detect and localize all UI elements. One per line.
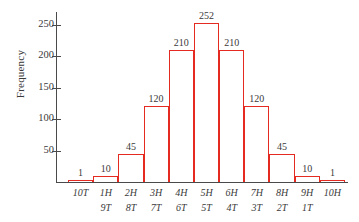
y-tick-mark [52,25,61,26]
bar-value-label: 120 [236,94,277,104]
y-tick-label: 150 [20,82,54,92]
y-tick-mark [52,56,61,57]
y-tick-100: 100 [0,119,66,120]
bar [169,50,194,182]
bar [144,106,169,182]
bar [320,180,345,182]
y-axis-line [56,12,57,183]
x-tick-label-group: 10H [314,186,351,216]
y-tick-label: 200 [20,50,54,60]
y-tick-label: 50 [20,145,54,155]
bar [93,176,118,182]
bar-value-label: 210 [211,38,252,48]
y-tick-150: 150 [0,88,66,89]
plot-area: 1104512021025221012045101 [68,12,345,182]
x-tick-label-secondary [314,200,351,216]
y-axis-label: Frequency [14,24,26,124]
y-tick-label: 250 [20,19,54,29]
bar-value-label: 252 [186,11,227,21]
y-tick-250: 250 [0,25,66,26]
x-axis-tick-labels: 10T 1H9T2H8T3H7T4H6T5H5T6H4T7H3T8H2T9H1T… [68,186,345,222]
bar [219,50,244,182]
bar-value-label: 1 [312,168,353,178]
bar [118,154,143,182]
bar-value-label: 45 [261,142,302,152]
y-tick-50: 50 [0,151,66,152]
y-tick-label: 100 [20,113,54,123]
x-axis-line [56,182,348,183]
y-tick-mark [52,119,61,120]
bar [68,180,93,182]
x-tick-label-primary: 10H [314,186,351,200]
y-tick-mark [52,151,61,152]
y-tick-mark [52,88,61,89]
y-tick-200: 200 [0,56,66,57]
histogram-chart: Frequency 50100150200250 110451202102522… [0,0,359,222]
